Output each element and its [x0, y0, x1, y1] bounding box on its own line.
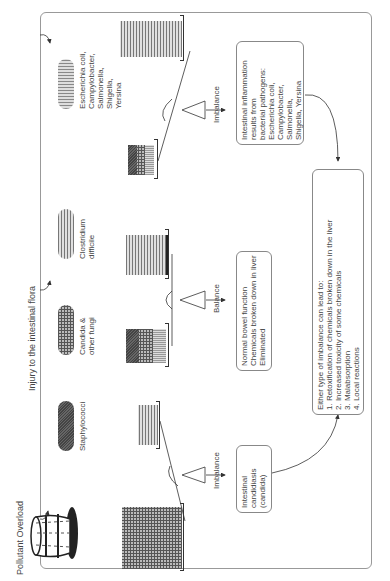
outcome-text-candidiasis: Intestinal candidiasis (candida)	[240, 450, 267, 508]
summary-box: Either type of imbalance can lead to: 1.…	[312, 169, 364, 415]
pan-mix-small	[128, 145, 154, 175]
summary-item-3: 3. Malabsorption	[343, 174, 352, 410]
scale-3-state: Imbalance	[212, 86, 221, 123]
pan-small-base	[154, 139, 158, 179]
diagram-canvas: Pollutant Overload Injury to the intesti…	[0, 0, 390, 581]
pan-heavy-right	[120, 21, 182, 57]
summary-item-4: 4. Local reactions	[352, 174, 361, 410]
pan-balance-right	[126, 235, 168, 275]
pan-balance-right-base	[165, 229, 169, 279]
pan-balance-left-base	[165, 323, 169, 367]
pan-right-small	[138, 405, 158, 445]
summary-heading: Either type of imbalance can lead to:	[316, 174, 325, 410]
outcome-box-candidiasis: Intestinal candidiasis (candida)	[236, 445, 272, 513]
outcome-text-inflammation: Intestinal inflammation results from bac…	[240, 46, 303, 140]
flora-pill-clostridium	[58, 209, 74, 259]
scale-2-state: Balance	[212, 284, 221, 313]
scale-1-state: Imbalance	[212, 452, 221, 489]
pan-left-base	[180, 503, 184, 571]
outcome-box-inflammation: Intestinal inflammation results from bac…	[236, 41, 304, 145]
outcome-text-normal: Normal bowel function Chemicals broken d…	[240, 256, 267, 366]
flora-label-ecoli: Escherichia coli, Campylobacter, Salmone…	[78, 51, 123, 109]
flora-pill-staphylococci	[58, 401, 74, 451]
pan-mix-left	[126, 329, 166, 363]
flora-pill-ecoli	[58, 59, 74, 109]
outcome-box-normal: Normal bowel function Chemicals broken d…	[236, 251, 272, 371]
flora-pill-candida	[58, 305, 74, 355]
pan-heavy-base	[180, 15, 184, 61]
flora-label-staphylococci: Staphylococci	[78, 402, 87, 451]
flora-label-candida: Candida & other fungi	[78, 317, 96, 355]
summary-item-1: 1. Retoxification of chemicals broken do…	[325, 174, 334, 410]
flora-label-clostridium: Clostridium difficile	[78, 219, 96, 259]
pan-left-grid	[122, 507, 182, 569]
pan-right-base	[156, 401, 160, 449]
summary-item-2: 2. Increased toxicity of some chemicals	[334, 174, 343, 410]
